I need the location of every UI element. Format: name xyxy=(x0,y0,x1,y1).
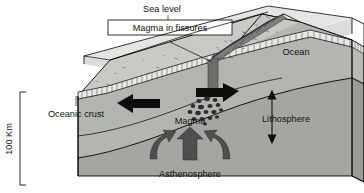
magma-label: Magma xyxy=(175,116,207,126)
depth-scale-label: 100 Km xyxy=(4,123,14,155)
lithosphere-label: Lithosphere xyxy=(262,114,310,124)
block-right-side-face xyxy=(352,40,364,182)
depth-scale-bracket xyxy=(20,92,26,185)
sea-level-label: Sea level xyxy=(143,4,181,14)
asthenosphere-label: Asthenosphere xyxy=(159,169,221,179)
sea-level-callout: Sea level xyxy=(108,2,216,15)
diagram-canvas: Sea level Magma in fissures Ocean Oceani… xyxy=(0,0,364,193)
ocean-label: Ocean xyxy=(282,47,309,57)
magma-in-fissures-label: Magma in fissures xyxy=(133,23,208,33)
oceanic-crust-label: Oceanic crust xyxy=(48,109,105,119)
seafloor-spreading-diagram: Sea level Magma in fissures Ocean Oceani… xyxy=(0,0,364,193)
right-side-lower xyxy=(352,78,364,182)
